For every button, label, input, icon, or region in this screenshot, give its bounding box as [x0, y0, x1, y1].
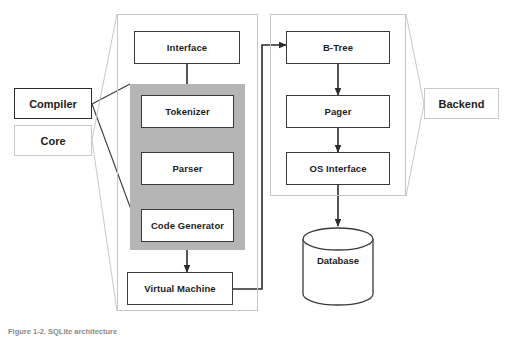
- figure-caption: Figure 1-2. SQLite architecture: [8, 327, 117, 336]
- node-tokenizer[interactable]: Tokenizer: [141, 95, 234, 128]
- callout-compiler[interactable]: Compiler: [14, 88, 92, 119]
- backend-leader-lines: [406, 14, 424, 196]
- node-code-generator[interactable]: Code Generator: [141, 209, 234, 242]
- callout-core[interactable]: Core: [14, 125, 92, 156]
- node-virtual-machine[interactable]: Virtual Machine: [127, 272, 233, 305]
- node-b-tree[interactable]: B-Tree: [286, 31, 390, 64]
- node-parser[interactable]: Parser: [141, 152, 234, 185]
- database-label: Database: [303, 252, 373, 268]
- node-pager[interactable]: Pager: [286, 95, 390, 128]
- callout-backend[interactable]: Backend: [424, 88, 499, 119]
- node-os-interface[interactable]: OS Interface: [286, 152, 390, 185]
- architecture-diagram: Interface Tokenizer Parser Code Generato…: [0, 0, 511, 341]
- node-interface[interactable]: Interface: [134, 31, 240, 64]
